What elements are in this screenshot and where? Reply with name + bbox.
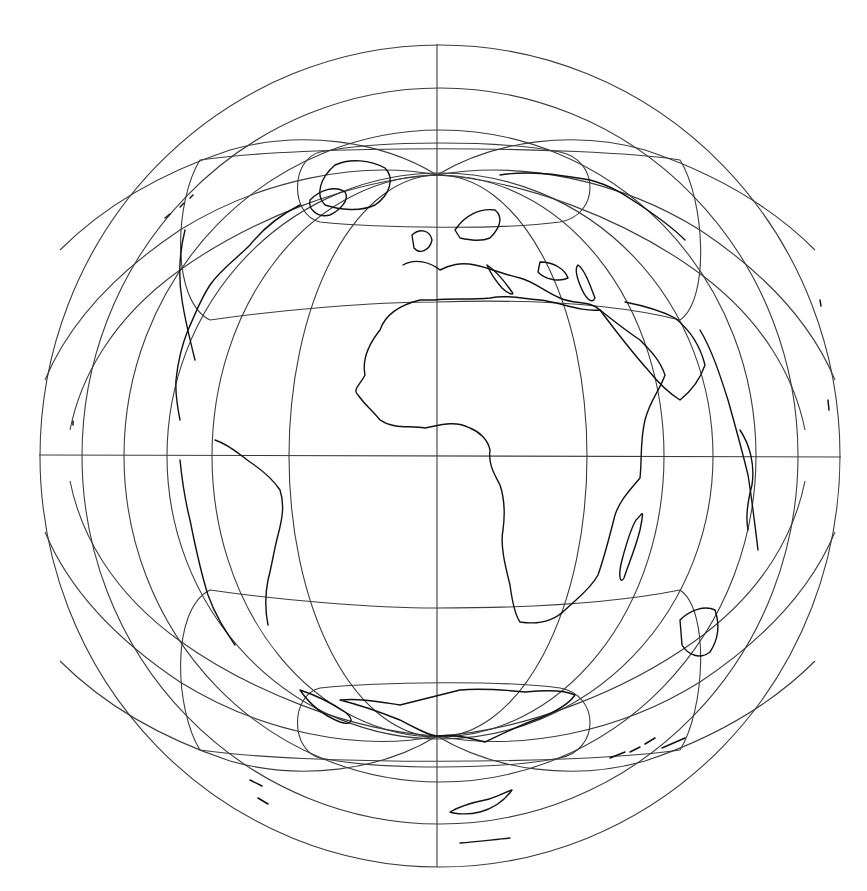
south-america-coast [215, 440, 283, 625]
north-small-oval [298, 143, 591, 227]
madagascar-coast [620, 514, 643, 581]
north-america-coast [176, 205, 300, 420]
caspian-sea [576, 265, 595, 301]
europe-coast [403, 261, 600, 310]
world-map [0, 0, 867, 891]
axes [39, 44, 841, 867]
southern-island-1 [450, 790, 512, 814]
south-small-oval [298, 683, 591, 767]
britain-coast [412, 231, 432, 251]
africa-coast [356, 297, 665, 623]
arabia-coast [600, 302, 705, 400]
greenland-coast [320, 161, 390, 210]
equator-line [39, 455, 841, 457]
scandinavia-coast [455, 210, 500, 241]
southeast-asia-coast [700, 330, 758, 550]
southern-island-2 [460, 838, 510, 843]
north-america-pacific [180, 230, 195, 360]
